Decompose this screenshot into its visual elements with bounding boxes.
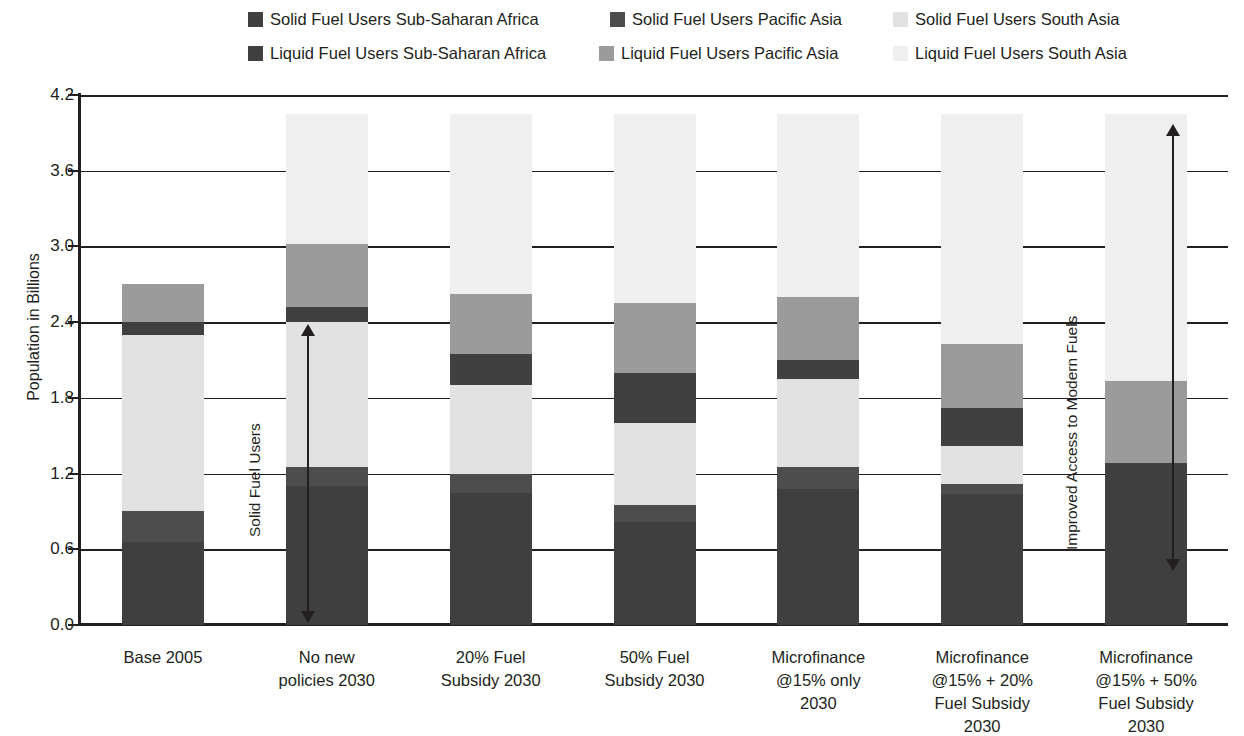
bar-segment [122,284,204,322]
bar-segment [777,297,859,360]
bar-segment [122,335,204,512]
arrow-up-icon [1166,124,1180,136]
legend-item-liquid-pacific-asia[interactable]: Liquid Fuel Users Pacific Asia [599,45,838,61]
x-axis-label-line: 2030 [743,692,893,715]
x-axis-label-line: @15% + 50% [1071,669,1221,692]
bar-segment [614,114,696,303]
x-axis-label-4: 50% FuelSubsidy 2030 [580,646,730,692]
bar-segment [286,467,368,486]
x-axis-label-line: Fuel Subsidy [1071,692,1221,715]
x-axis-label-line: 50% Fuel [580,646,730,669]
bar-segment [941,344,1023,408]
x-axis-label-line: 20% Fuel [416,646,566,669]
bar-segment [286,322,368,467]
bar-segment [777,360,859,379]
bar-5[interactable] [777,114,859,625]
x-axis-label-1: Base 2005 [88,646,238,669]
bar-segment [941,494,1023,625]
legend-item-liquid-sub-saharan-africa[interactable]: Liquid Fuel Users Sub-Saharan Africa [248,45,546,61]
chart-plot: Population in Billions 0.00.61.21.82.43.… [0,72,1244,642]
x-axis-label-line: Subsidy 2030 [580,669,730,692]
arrow-down-icon [1166,559,1180,571]
legend-item-label: Liquid Fuel Users Sub-Saharan Africa [270,45,546,61]
bar-segment [122,322,204,335]
x-axis-label-3: 20% FuelSubsidy 2030 [416,646,566,692]
x-axis-label-line: Subsidy 2030 [416,669,566,692]
x-axis-label-line: No new [252,646,402,669]
legend-swatch-icon [248,46,263,61]
bar-segment [614,505,696,521]
arrow-up-icon [301,324,315,336]
bar-segment [122,542,204,625]
x-axis-label-line: Microfinance [743,646,893,669]
improved-access-arrow-line [1172,135,1174,560]
x-axis-labels: Base 2005No newpolicies 203020% FuelSubs… [81,646,1228,736]
bar-segment [450,114,532,294]
legend-swatch-icon [599,46,614,61]
bar-segment [614,373,696,423]
bar-1[interactable] [122,284,204,625]
legend-item-label: Solid Fuel Users Sub-Saharan Africa [270,11,539,27]
chart-legend: Solid Fuel Users Sub-Saharan Africa Soli… [0,0,1244,72]
x-axis-label-5: Microfinance@15% only2030 [743,646,893,715]
chart-page: Solid Fuel Users Sub-Saharan Africa Soli… [0,0,1244,736]
bar-segment [450,474,532,493]
legend-item-solid-south-asia[interactable]: Solid Fuel Users South Asia [893,11,1120,27]
x-axis-label-line: 2030 [907,715,1057,736]
bar-segment [777,114,859,297]
bar-segment [777,467,859,488]
y-axis-ticks: 0.00.61.21.82.43.03.64.2 [0,72,74,602]
legend-swatch-icon [248,12,263,27]
legend-item-label: Solid Fuel Users South Asia [915,11,1120,27]
solid-fuel-users-arrow-line [307,335,309,612]
legend-item-label: Solid Fuel Users Pacific Asia [632,11,842,27]
x-axis-label-line: Base 2005 [88,646,238,669]
arrow-down-icon [301,611,315,623]
legend-swatch-icon [893,12,908,27]
legend-row-solid: Solid Fuel Users Sub-Saharan Africa Soli… [0,4,1244,34]
x-axis-label-2: No newpolicies 2030 [252,646,402,692]
legend-swatch-icon [610,12,625,27]
bar-7[interactable] [1105,114,1187,625]
bar-segment [286,307,368,322]
x-axis-label-7: Microfinance@15% + 50%Fuel Subsidy2030 [1071,646,1221,736]
bar-segment [614,423,696,505]
bar-segment [122,511,204,541]
bar-segment [614,522,696,625]
x-axis-label-line: 2030 [1071,715,1221,736]
improved-access-annotation: Improved Access to Modern Fuels [1063,316,1081,550]
bar-segment [450,385,532,473]
bar-segment [941,446,1023,484]
x-axis-label-line: Fuel Subsidy [907,692,1057,715]
bar-segment [1105,381,1187,463]
bar-3[interactable] [450,114,532,625]
bar-segment [286,114,368,244]
x-axis-label-6: Microfinance@15% + 20%Fuel Subsidy2030 [907,646,1057,736]
bar-segment [941,408,1023,446]
bar-4[interactable] [614,114,696,625]
solid-fuel-users-annotation: Solid Fuel Users [246,423,264,537]
bar-segment [450,354,532,386]
legend-swatch-icon [893,46,908,61]
bar-segment [614,303,696,372]
x-axis-label-line: @15% only [743,669,893,692]
x-axis-label-line: @15% + 20% [907,669,1057,692]
bar-segment [450,493,532,626]
plot-area [81,95,1228,625]
bar-segment [1105,114,1187,382]
bar-segment [286,244,368,307]
bar-segment [450,294,532,353]
x-axis-label-line: Microfinance [1071,646,1221,669]
legend-item-solid-sub-saharan-africa[interactable]: Solid Fuel Users Sub-Saharan Africa [248,11,539,27]
bar-segment [777,379,859,467]
bar-segment [941,114,1023,344]
legend-item-solid-pacific-asia[interactable]: Solid Fuel Users Pacific Asia [610,11,842,27]
x-axis-label-line: Microfinance [907,646,1057,669]
legend-item-liquid-south-asia[interactable]: Liquid Fuel Users South Asia [893,45,1127,61]
legend-item-label: Liquid Fuel Users Pacific Asia [621,45,838,61]
legend-row-liquid: Liquid Fuel Users Sub-Saharan Africa Liq… [0,38,1244,68]
bar-segment [286,486,368,625]
bar-segment [941,484,1023,494]
bar-2[interactable] [286,114,368,625]
bar-6[interactable] [941,114,1023,625]
